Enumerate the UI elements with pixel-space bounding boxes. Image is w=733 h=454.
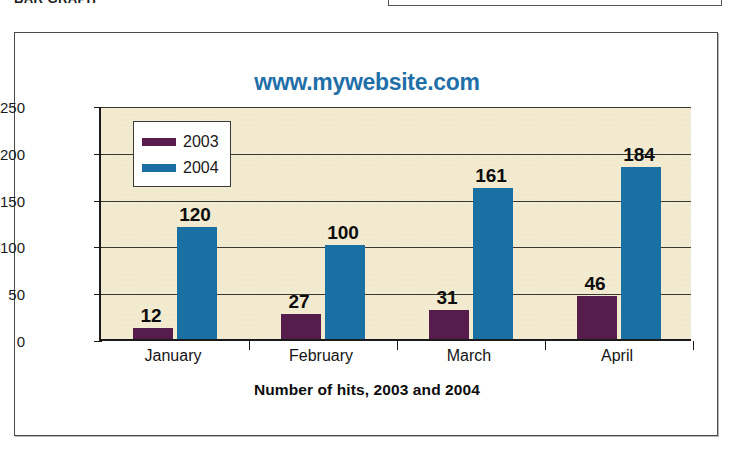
bar-value-march-2004: 161: [475, 165, 507, 187]
bar-january-2003: [133, 328, 173, 339]
x-axis-label-january: January: [145, 347, 202, 365]
y-tick-mark-250: [94, 107, 102, 108]
bar-march-2003: [429, 310, 469, 339]
x-tick-mark-3: [545, 341, 546, 350]
y-tick-label-0: 0: [0, 333, 25, 350]
bar-value-january-2003: 12: [140, 305, 161, 327]
x-tick-mark-1: [249, 341, 250, 350]
bar-february-2004: [325, 245, 365, 339]
bar-march-2004: [473, 188, 513, 339]
x-axis-label-april: April: [601, 347, 633, 365]
screenshot-canvas: BAR GRAPH www.mywebsite.com Number of hi…: [0, 0, 733, 454]
legend-item-2004: 2004: [142, 155, 230, 181]
y-tick-mark-50: [94, 294, 102, 295]
x-tick-mark-2: [397, 341, 398, 350]
chart-title: www.mywebsite.com: [15, 69, 719, 96]
legend-item-2003: 2003: [142, 129, 230, 155]
bar-january-2004: [177, 227, 217, 339]
top-caption-text: BAR GRAPH: [14, 0, 96, 6]
x-axis-title: Number of hits, 2003 and 2004: [15, 381, 719, 399]
legend-swatch-2004: [142, 164, 176, 172]
bar-chart-frame: www.mywebsite.com Number of hits, 2003 a…: [14, 32, 718, 436]
x-tick-mark-4: [693, 341, 694, 350]
y-tick-mark-150: [94, 201, 102, 202]
y-tick-label-150: 150: [0, 192, 25, 209]
y-tick-label-100: 100: [0, 239, 25, 256]
y-tick-mark-200: [94, 154, 102, 155]
x-axis-label-february: February: [289, 347, 353, 365]
y-tick-label-250: 250: [0, 99, 25, 116]
y-tick-mark-0: [94, 341, 102, 342]
bar-value-february-2004: 100: [327, 222, 359, 244]
x-axis-label-march: March: [447, 347, 491, 365]
bar-april-2004: [621, 167, 661, 339]
bar-value-april-2004: 184: [623, 144, 655, 166]
legend-swatch-2003: [142, 138, 176, 146]
gridline-250: [101, 107, 691, 108]
bar-value-april-2003: 46: [584, 273, 605, 295]
legend-label-2003: 2003: [183, 133, 219, 151]
partial-box-artifact: [388, 0, 722, 6]
bar-february-2003: [281, 314, 321, 339]
y-tick-mark-100: [94, 247, 102, 248]
bar-value-february-2003: 27: [288, 291, 309, 313]
y-tick-label-50: 50: [0, 286, 25, 303]
y-tick-label-200: 200: [0, 145, 25, 162]
legend-label-2004: 2004: [183, 159, 219, 177]
gridline-150: [101, 201, 691, 202]
bar-april-2003: [577, 296, 617, 339]
chart-legend: 2003 2004: [133, 121, 231, 187]
bar-value-january-2004: 120: [179, 204, 211, 226]
bar-value-march-2003: 31: [436, 287, 457, 309]
